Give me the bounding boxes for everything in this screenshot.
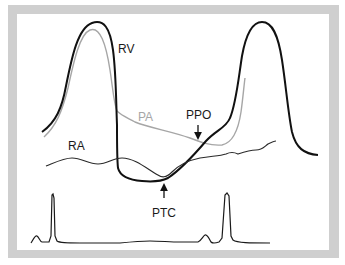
- pa-trace: [44, 29, 245, 145]
- rv-label: RV: [118, 43, 134, 55]
- pa-label: PA: [138, 111, 153, 123]
- ptc-label: PTC: [152, 207, 176, 219]
- ppo-label: PPO: [186, 109, 211, 121]
- rv-trace: [42, 22, 318, 182]
- waveform-plot: [0, 0, 345, 265]
- ra-label: RA: [68, 140, 85, 152]
- ecg-trace: [31, 193, 270, 243]
